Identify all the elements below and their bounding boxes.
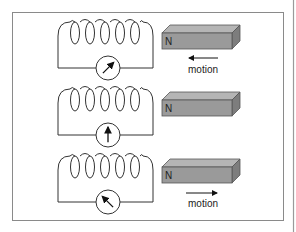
- galvanometer-icon: [96, 123, 120, 147]
- motion-label: motion: [188, 64, 218, 75]
- row-magnet-approaching: Nmotion: [58, 20, 240, 81]
- circuit-wire-left: [58, 22, 96, 68]
- coil: [70, 20, 143, 45]
- row-magnet-receding: Nmotion: [58, 154, 240, 215]
- circuit-wire-left: [58, 89, 96, 135]
- circuit-wire-right: [120, 22, 153, 68]
- bar-magnet: N: [162, 159, 240, 183]
- galvanometer-icon: [96, 190, 120, 214]
- bar-magnet: N: [162, 92, 240, 116]
- north-pole-label: N: [165, 103, 172, 114]
- circuit-wire-right: [120, 156, 153, 202]
- galvanometer-icon: [96, 56, 120, 80]
- north-pole-label: N: [165, 170, 172, 181]
- row-magnet-stationary: N: [58, 87, 240, 148]
- coil: [70, 87, 143, 112]
- motion-indicator: motion: [188, 58, 218, 75]
- circuit-wire-right: [120, 89, 153, 135]
- circuit-wire-left: [58, 156, 96, 202]
- diagram-frame: [13, 13, 284, 221]
- motion-label: motion: [188, 198, 218, 209]
- bar-magnet: N: [162, 25, 240, 49]
- motion-indicator: motion: [186, 193, 218, 209]
- coil: [70, 154, 143, 179]
- north-pole-label: N: [165, 36, 172, 47]
- induction-diagram: Nmotion N Nmotion: [0, 0, 296, 232]
